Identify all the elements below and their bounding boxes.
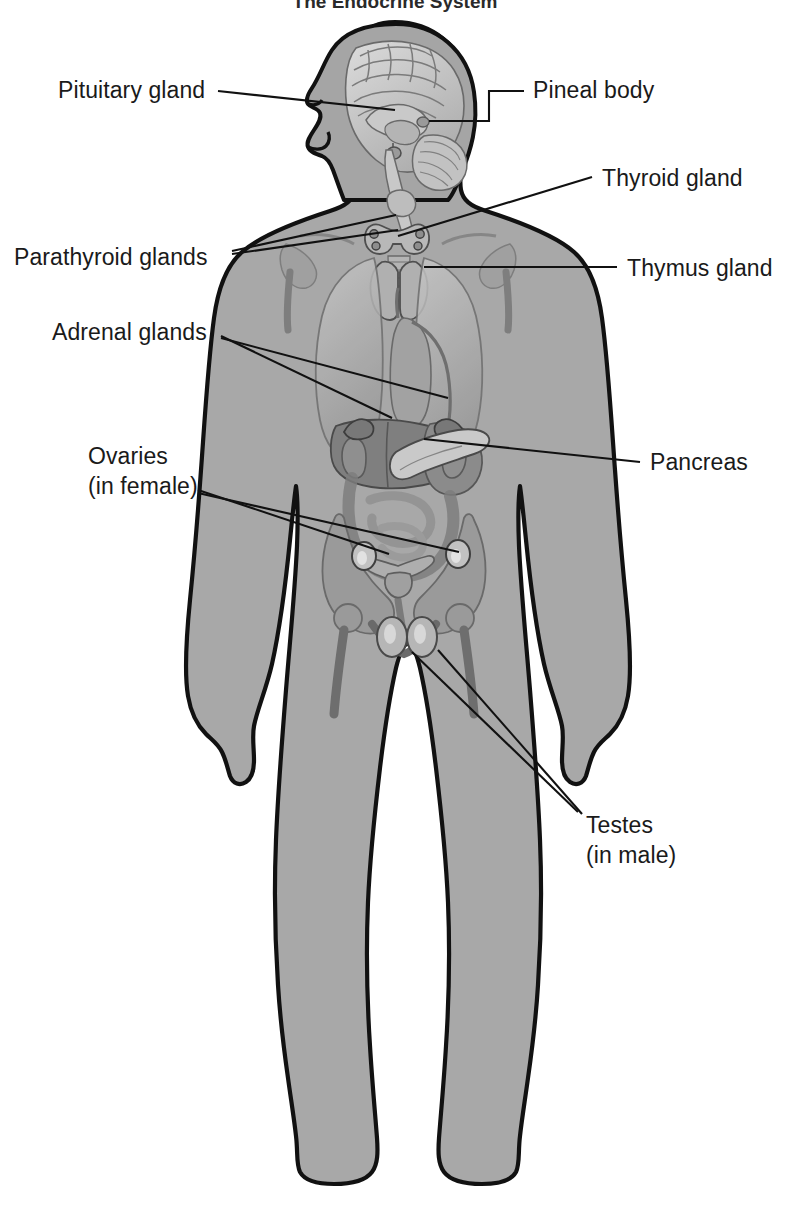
figure-title: The Endocrine System <box>293 0 498 12</box>
label-testes-qualifier: (in male) <box>586 842 676 868</box>
pineal-body-organ <box>417 117 429 127</box>
kidney-left <box>342 438 366 478</box>
humerus-right <box>506 272 509 330</box>
endocrine-system-figure: The Endocrine System <box>0 0 790 1220</box>
testis-left-highlight <box>384 624 396 644</box>
anatomy-illustration: The Endocrine System <box>0 0 790 1220</box>
heart <box>390 318 431 428</box>
label-parathyroid-glands: Parathyroid glands <box>14 244 208 270</box>
label-thyroid-gland: Thyroid gland <box>602 165 743 191</box>
superior-vena-cava <box>397 288 399 318</box>
uterus-body <box>385 573 412 598</box>
label-thymus-gland: Thymus gland <box>627 255 773 281</box>
parathyroid-gland-lower-right <box>414 242 422 250</box>
testis-right-highlight <box>414 624 426 644</box>
femur-head-right <box>446 604 474 632</box>
ovary-left-highlight <box>357 551 367 565</box>
label-pancreas: Pancreas <box>650 449 748 475</box>
figure-title-text: The Endocrine System <box>293 0 498 12</box>
label-testes: Testes <box>586 812 653 838</box>
label-adrenal-glands: Adrenal glands <box>52 319 207 345</box>
larynx <box>387 190 415 217</box>
femur-head-left <box>334 604 362 632</box>
label-pineal-body: Pineal body <box>533 77 655 103</box>
parathyroid-gland-lower-left <box>372 242 380 250</box>
label-pituitary-gland: Pituitary gland <box>58 77 205 103</box>
humerus-left <box>287 272 290 330</box>
label-ovaries-qualifier: (in female) <box>88 473 198 499</box>
label-ovaries: Ovaries <box>88 443 168 469</box>
